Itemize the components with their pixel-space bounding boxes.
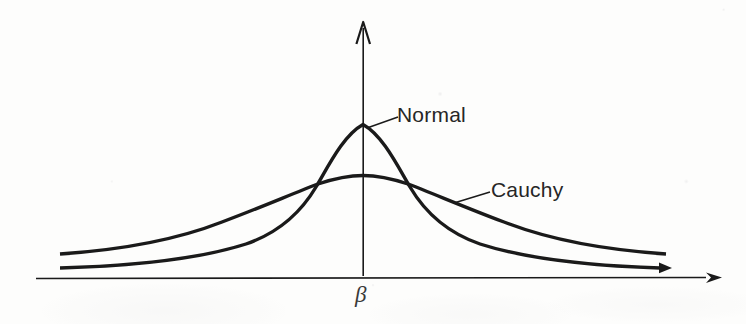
normal-tail-arrow-right-icon <box>659 263 672 274</box>
cauchy-label-leader-line <box>454 192 490 203</box>
normal-density-curve <box>60 125 660 269</box>
normal-curve-label: Normal <box>397 104 466 125</box>
density-comparison-figure: Normal Cauchy β <box>0 0 746 324</box>
plot-canvas <box>0 0 746 324</box>
normal-label-leader-line <box>367 117 398 128</box>
x-axis-line <box>36 278 706 279</box>
x-axis-beta-tick-label: β <box>355 283 366 306</box>
y-axis <box>356 22 370 276</box>
arrow-right-icon <box>706 273 722 284</box>
x-axis <box>36 273 722 284</box>
cauchy-curve-label: Cauchy <box>491 179 563 200</box>
